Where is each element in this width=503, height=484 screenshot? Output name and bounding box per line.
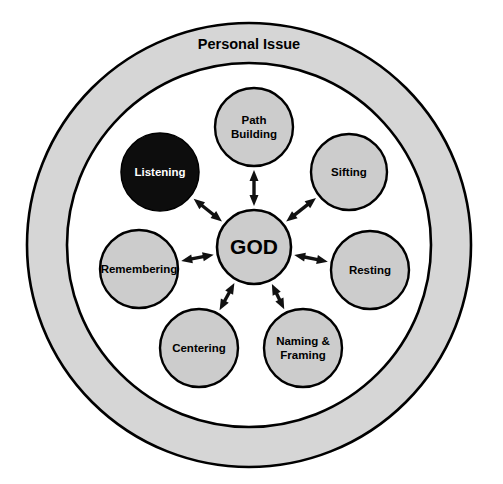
node-god[interactable]: GOD (217, 210, 291, 284)
node-centering[interactable]: Centering (160, 309, 238, 387)
node-remembering[interactable]: Remembering (100, 230, 178, 308)
arrowhead-to-path-building (250, 170, 259, 181)
arrowhead-to-center-from-path-building (250, 195, 259, 206)
node-naming-framing[interactable]: Naming &Framing (264, 309, 342, 387)
node-path-building[interactable]: PathBuilding (215, 88, 293, 166)
node-circle-path-building[interactable] (215, 88, 293, 166)
arrowhead-to-center-from-resting (294, 253, 306, 262)
node-resting[interactable]: Resting (331, 231, 409, 309)
node-circle-naming-framing[interactable] (264, 309, 342, 387)
node-label-resting: Resting (349, 264, 391, 276)
diagram-canvas: Personal Issue PathBuildingSiftingRestin… (0, 0, 503, 484)
node-layer: PathBuildingSiftingRestingNaming &Framin… (100, 88, 409, 387)
node-label-naming-framing: Naming & (276, 335, 330, 347)
node-label-centering: Centering (172, 342, 226, 354)
outer-ring-label: Personal Issue (198, 36, 300, 52)
node-label-remembering: Remembering (101, 263, 178, 275)
node-label-god: GOD (230, 235, 278, 258)
connector-line-sifting (292, 203, 309, 217)
node-label-sifting: Sifting (331, 166, 367, 178)
node-sifting[interactable]: Sifting (311, 134, 387, 210)
arrowhead-to-remembering (181, 254, 193, 263)
node-label-path-building: Building (231, 128, 277, 140)
arrowhead-to-center-from-remembering (202, 252, 214, 261)
node-label-listening: Listening (134, 166, 185, 178)
node-label-naming-framing: Framing (280, 349, 325, 361)
node-label-path-building: Path (242, 114, 267, 126)
node-listening[interactable]: Listening (121, 133, 199, 211)
arrowhead-to-resting (316, 255, 328, 264)
personal-issue-god-diagram: Personal Issue PathBuildingSiftingRestin… (0, 0, 503, 484)
